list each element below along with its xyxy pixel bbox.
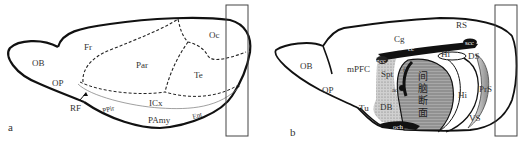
panel-b: OB OP mPFC Tu Cg RS cc scc gcc Spt f ac … [275,5,517,138]
label-par: Par [136,60,148,70]
label-b-db: DB [380,102,393,112]
label-b-och: och [393,123,404,131]
label-b-tu: Tu [359,103,369,113]
panel-a-label: a [8,121,13,133]
label-op: OP [52,78,64,88]
label-fr: Fr [84,42,92,52]
panel-b-anterior-commissure [399,85,405,91]
label-b-mpfc: mPFC [347,64,370,74]
label-ent: Ent [192,111,203,121]
diencephalon-char-2: 脑 [418,82,428,94]
label-b-vs: VS [469,113,481,123]
panel-a-brain-outline [58,18,250,128]
label-ob: OB [32,58,45,68]
label-rf: RF [70,103,81,113]
label-b-hi: Hi [458,90,467,100]
label-b-pros: PrS [479,84,492,94]
label-b-ac: ac [392,86,398,94]
diencephalon-char-3: 断 [418,94,428,106]
label-b-op: OP [322,85,334,95]
panel-b-label: b [290,126,296,138]
label-oc: Oc [209,30,220,40]
label-b-hi-dorsal: Hi [441,49,450,59]
label-b-ob: OB [300,61,313,71]
panel-a-rhinal-border [80,82,240,96]
panel-a-olfactory-bulb-outline [8,41,84,102]
panel-a: OB OP RF Fr Par Oc Te ICx PPir PAmy Ent … [8,5,250,136]
label-ppir: PPir [102,104,116,115]
panel-b-ob-border [323,46,332,74]
label-b-spt: Spt [381,69,394,79]
label-b-scc: scc [465,39,474,47]
label-pamy: PAmy [148,115,171,125]
panel-a-par-te-border [165,42,188,92]
label-b-cg: Cg [394,34,405,44]
label-b-gcc: gcc [376,57,386,65]
panel-a-fr-par-border [83,19,178,82]
label-b-cc: cc [408,45,414,53]
diencephalon-char-4: 面 [418,107,428,118]
label-b-ds: DS [468,51,480,61]
panel-b-section-box [495,5,517,136]
label-b-rs: RS [456,20,467,30]
label-te: Te [194,70,203,80]
diencephalon-char-1: 间 [418,70,428,82]
brain-figure: OB OP RF Fr Par Oc Te ICx PPir PAmy Ent … [0,0,526,147]
label-icx: ICx [149,98,163,108]
